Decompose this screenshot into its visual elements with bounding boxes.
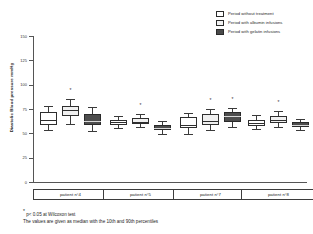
y-tick-label: 150 <box>7 34 27 39</box>
cap-lower <box>274 127 284 128</box>
cap-lower <box>228 127 238 128</box>
significance-asterisk-icon: * <box>66 88 76 93</box>
box-rect <box>84 114 101 125</box>
plot-area: 0255075100125150 Diastolic Blood pressur… <box>0 0 313 234</box>
y-axis-line <box>33 36 34 182</box>
y-tick <box>29 85 33 86</box>
significance-asterisk-icon: * <box>274 100 284 105</box>
median-line <box>224 116 241 117</box>
cap-lower <box>158 134 168 135</box>
y-tick <box>29 182 33 183</box>
figure-root: Period without treatmentPeriod with albu… <box>0 0 313 234</box>
median-line <box>110 122 127 123</box>
whisker-upper <box>70 99 71 106</box>
median-line <box>154 128 171 129</box>
median-line <box>292 125 309 126</box>
median-line <box>84 121 101 122</box>
cap-lower <box>296 130 306 131</box>
group-label-4: patient n°8 <box>241 189 313 200</box>
cap-lower <box>114 128 124 129</box>
cap-lower <box>66 124 76 125</box>
median-line <box>40 120 57 121</box>
cap-upper <box>228 108 238 109</box>
significance-asterisk-icon: * <box>228 97 238 102</box>
cap-upper <box>274 111 284 112</box>
box-rect <box>180 117 197 129</box>
cap-lower <box>44 130 54 131</box>
cap-upper <box>206 109 216 110</box>
significance-asterisk-icon: * <box>206 98 216 103</box>
significance-asterisk-icon: * <box>136 103 146 108</box>
median-line <box>270 120 287 121</box>
group-label-3: patient n°7 <box>173 189 248 200</box>
footnote-significance-text: p< 0.05 at Wilcoxon test <box>25 212 75 217</box>
cap-upper <box>114 116 124 117</box>
cap-upper <box>252 115 262 116</box>
footnote-significance: * p< 0.05 at Wilcoxon test <box>23 208 158 218</box>
median-line <box>202 121 219 122</box>
cap-lower <box>136 127 146 128</box>
box-rect <box>40 112 57 125</box>
median-line <box>62 110 79 111</box>
y-tick <box>29 158 33 159</box>
y-tick <box>29 133 33 134</box>
y-tick <box>29 36 33 37</box>
median-line <box>248 123 265 124</box>
box-rect <box>202 114 219 125</box>
cap-upper <box>158 121 168 122</box>
whisker-lower <box>92 125 93 132</box>
y-tick <box>29 109 33 110</box>
cap-upper <box>88 107 98 108</box>
median-line <box>180 125 197 126</box>
cap-upper <box>66 99 76 100</box>
y-axis-label: Diastolic Blood pressure mmHg <box>9 43 14 153</box>
median-line <box>132 122 149 123</box>
y-tick-label: 25 <box>7 155 27 160</box>
group-label-2: patient n°5 <box>103 189 178 200</box>
footnotes: * p< 0.05 at Wilcoxon test The values ar… <box>23 208 158 226</box>
cap-lower <box>184 134 194 135</box>
cap-lower <box>88 131 98 132</box>
whisker-lower <box>70 116 71 124</box>
cap-upper <box>296 119 306 120</box>
cap-upper <box>184 113 194 114</box>
cap-upper <box>136 114 146 115</box>
footnote-method: The values are given as median with the … <box>23 218 158 226</box>
whisker-upper <box>92 107 93 114</box>
cap-upper <box>44 106 54 107</box>
group-label-1: patient n°4 <box>33 189 108 200</box>
cap-lower <box>252 129 262 130</box>
y-tick <box>29 60 33 61</box>
y-tick-label: 0 <box>7 180 27 185</box>
cap-lower <box>206 130 216 131</box>
